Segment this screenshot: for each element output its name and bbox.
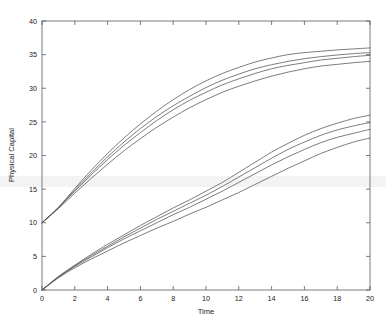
y-tick-label: 10 [29, 218, 37, 227]
x-tick-label: 18 [333, 294, 341, 303]
figure-canvas: 0510152025303540 02468101214161820 Time … [0, 0, 386, 321]
y-tick-label: 25 [29, 118, 37, 127]
y-tick-label: 5 [33, 252, 37, 261]
y-tick-label: 30 [29, 84, 37, 93]
x-tick-label: 2 [73, 294, 77, 303]
x-axis-title: Time [198, 307, 215, 316]
y-tick-label: 0 [33, 286, 37, 295]
x-tick-label: 0 [40, 294, 44, 303]
x-tick-label: 4 [106, 294, 110, 303]
physical-capital-vs-time-chart: 0510152025303540 02468101214161820 Time … [0, 0, 386, 321]
x-tick-label: 10 [202, 294, 210, 303]
chart-background [0, 0, 386, 321]
x-tick-label: 16 [300, 294, 308, 303]
x-tick-label: 14 [268, 294, 276, 303]
y-tick-label: 20 [29, 151, 37, 160]
y-axis-title: Physical Capital [7, 128, 16, 182]
x-tick-label: 6 [138, 294, 142, 303]
x-tick-label: 20 [366, 294, 374, 303]
y-tick-label: 40 [29, 17, 37, 26]
x-tick-label: 8 [171, 294, 175, 303]
y-tick-label: 15 [29, 185, 37, 194]
y-tick-label: 35 [29, 50, 37, 59]
x-tick-label: 12 [235, 294, 243, 303]
